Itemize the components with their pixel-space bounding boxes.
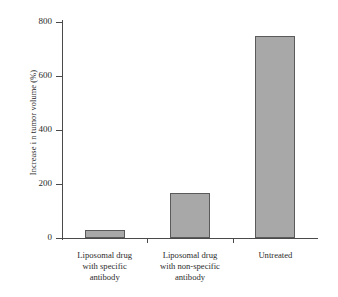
x-axis-separator-tick — [147, 238, 148, 243]
y-axis-tick-mark — [56, 184, 62, 185]
y-axis-tick-mark — [56, 22, 62, 23]
x-axis-separator-tick — [233, 238, 234, 243]
x-axis-category-label: Untreated — [233, 250, 318, 261]
x-axis-category-label: Liposomal drugwith specificantibody — [62, 250, 147, 284]
x-axis-category-label-line: antibody — [147, 272, 232, 283]
x-axis-category-label-line: Untreated — [233, 250, 318, 261]
x-axis-category-label-line: Liposomal drug — [62, 250, 147, 261]
bar — [170, 193, 210, 238]
y-axis-line — [62, 20, 63, 240]
x-axis-category-label-line: Liposomal drug — [147, 250, 232, 261]
x-axis-category-label-line: with specific — [62, 261, 147, 272]
y-axis-title: Increase i n tumor volume (%) — [29, 28, 38, 218]
x-axis-category-label: Liposomal drugwith non-specificantibody — [147, 250, 232, 284]
bar — [255, 36, 295, 238]
x-axis-line — [62, 238, 318, 239]
y-axis-tick-label: 800 — [0, 16, 52, 26]
bar-chart-figure: Increase i n tumor volume (%) 0200400600… — [0, 0, 338, 297]
x-axis-category-label-line: with non-specific — [147, 261, 232, 272]
y-axis-tick-label: 600 — [0, 70, 52, 80]
y-axis-tick-mark — [56, 130, 62, 131]
bar — [85, 230, 125, 238]
y-axis-tick-label: 200 — [0, 178, 52, 188]
y-axis-tick-mark — [56, 76, 62, 77]
y-axis-tick-label: 0 — [0, 232, 52, 242]
x-axis-category-label-line: antibody — [62, 272, 147, 283]
y-axis-tick-mark — [56, 238, 62, 239]
y-axis-tick-label: 400 — [0, 124, 52, 134]
